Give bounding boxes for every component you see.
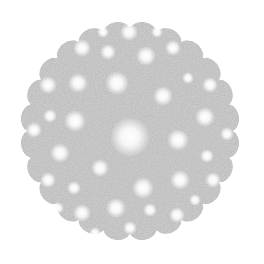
- bright-spot: [105, 71, 129, 95]
- bright-spot: [50, 143, 70, 163]
- bright-spot: [132, 177, 154, 199]
- bright-spot: [136, 46, 156, 66]
- bright-spot: [220, 127, 234, 141]
- bright-spot: [106, 198, 126, 218]
- bright-spot: [123, 221, 137, 235]
- bright-spot: [170, 170, 190, 190]
- bright-spot: [67, 181, 81, 195]
- bright-spot: [189, 194, 201, 206]
- bright-spot: [73, 204, 91, 222]
- bright-spot: [91, 159, 109, 177]
- bright-spot: [169, 207, 185, 223]
- bright-spot: [26, 122, 42, 138]
- bright-spot: [167, 129, 189, 151]
- bright-spot: [143, 203, 157, 217]
- bright-spot: [165, 40, 181, 56]
- bright-spot: [43, 109, 57, 123]
- bright-spot: [153, 86, 173, 106]
- bright-spot: [64, 110, 86, 132]
- bright-spot: [182, 72, 194, 84]
- bright-spot: [73, 39, 91, 57]
- bright-spot: [202, 77, 218, 93]
- bright-spot: [100, 44, 116, 60]
- bright-spot: [39, 76, 57, 94]
- bright-spot: [200, 149, 214, 163]
- fractal-disc-image: [0, 0, 264, 264]
- bright-spot: [205, 172, 221, 188]
- bright-spot: [195, 107, 215, 127]
- bright-spot: [40, 172, 56, 188]
- bright-spot: [68, 73, 88, 93]
- bright-spot: [110, 117, 150, 157]
